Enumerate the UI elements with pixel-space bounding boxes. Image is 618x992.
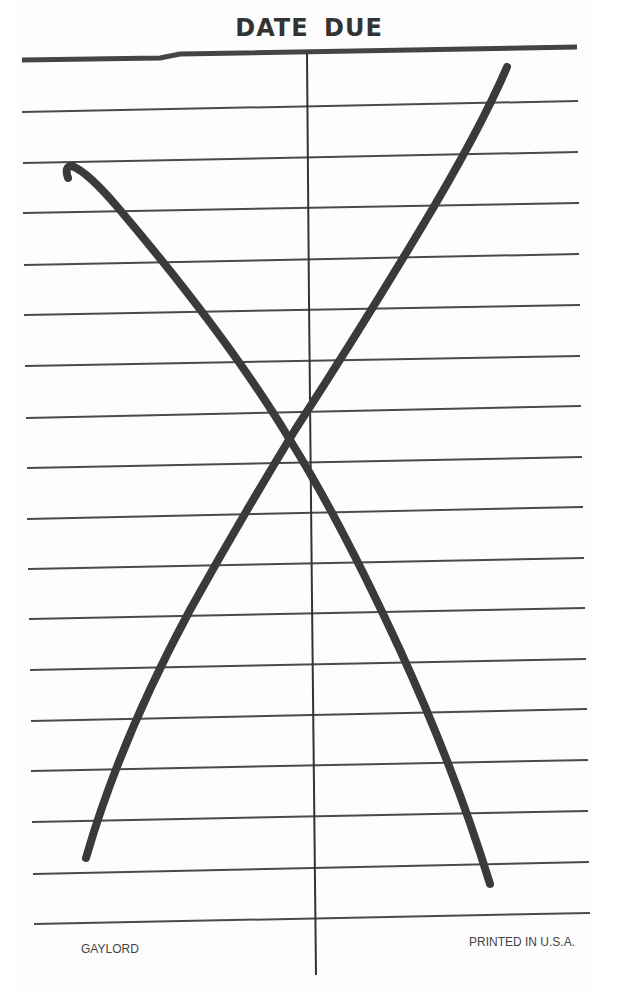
cancellation-x-mark: [67, 67, 507, 884]
printed-in-label: PRINTED IN U.S.A.: [469, 935, 575, 949]
publisher-label: GAYLORD: [81, 942, 139, 956]
x-stroke-descending: [67, 166, 490, 884]
header-rule: [22, 47, 577, 60]
column-divider: [307, 54, 316, 975]
ruled-grid: [0, 0, 618, 992]
